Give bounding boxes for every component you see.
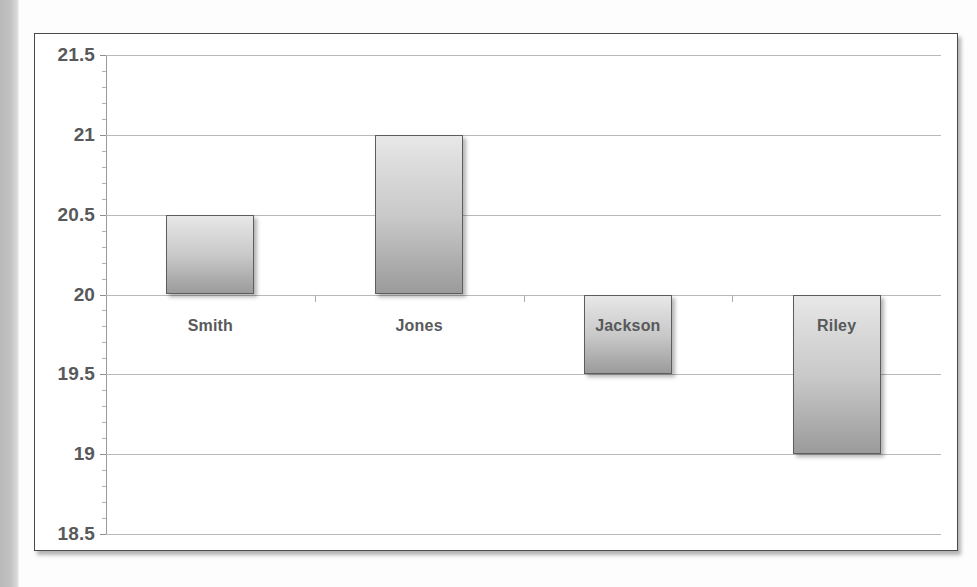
category-label-jones: Jones bbox=[396, 317, 443, 335]
y-axis-major-tick bbox=[100, 534, 106, 535]
y-axis-major-tick bbox=[100, 215, 106, 216]
gridline bbox=[106, 534, 941, 535]
y-axis-minor-tick bbox=[102, 326, 106, 327]
y-axis-minor-tick bbox=[102, 518, 106, 519]
y-axis-minor-tick bbox=[102, 87, 106, 88]
y-axis-tick-label: 20.5 bbox=[58, 204, 95, 226]
y-axis-minor-tick bbox=[102, 151, 106, 152]
category-label-smith: Smith bbox=[188, 317, 233, 335]
y-axis-tick-label: 21.5 bbox=[58, 44, 95, 66]
y-axis-minor-tick bbox=[102, 310, 106, 311]
y-axis-major-tick bbox=[100, 55, 106, 56]
y-axis-minor-tick bbox=[102, 279, 106, 280]
y-axis-minor-tick bbox=[102, 422, 106, 423]
y-axis-major-tick bbox=[100, 295, 106, 296]
scanned-page: 21.52120.52019.51918.5 SmithJonesJackson… bbox=[0, 0, 977, 587]
y-axis-minor-tick bbox=[102, 486, 106, 487]
gridline bbox=[106, 454, 941, 455]
y-axis-tick-label: 19.5 bbox=[58, 363, 95, 385]
y-axis-tick-label: 19 bbox=[74, 443, 95, 465]
y-axis-major-tick bbox=[100, 135, 106, 136]
y-axis-tick-label: 18.5 bbox=[58, 523, 95, 545]
y-axis-minor-tick bbox=[102, 71, 106, 72]
y-axis-minor-tick bbox=[102, 358, 106, 359]
category-label-riley: Riley bbox=[817, 317, 856, 335]
gridline bbox=[106, 135, 941, 136]
chart-frame: 21.52120.52019.51918.5 SmithJonesJackson… bbox=[34, 33, 958, 551]
y-axis-minor-tick bbox=[102, 167, 106, 168]
y-axis-tick-label: 20 bbox=[74, 284, 95, 306]
x-axis-tick bbox=[315, 295, 316, 302]
category-label-jackson: Jackson bbox=[595, 317, 660, 335]
y-axis-minor-tick bbox=[102, 342, 106, 343]
x-axis-tick bbox=[524, 295, 525, 302]
y-axis-minor-tick bbox=[102, 470, 106, 471]
y-axis-minor-tick bbox=[102, 199, 106, 200]
plot-area: 21.52120.52019.51918.5 SmithJonesJackson… bbox=[106, 55, 941, 534]
y-axis-major-tick bbox=[100, 454, 106, 455]
y-axis-minor-tick bbox=[102, 438, 106, 439]
y-axis-minor-tick bbox=[102, 263, 106, 264]
y-axis-minor-tick bbox=[102, 406, 106, 407]
y-axis-tick-label: 21 bbox=[74, 124, 95, 146]
y-axis-major-tick bbox=[100, 374, 106, 375]
y-axis-minor-tick bbox=[102, 390, 106, 391]
y-axis-minor-tick bbox=[102, 247, 106, 248]
y-axis-minor-tick bbox=[102, 119, 106, 120]
y-axis-minor-tick bbox=[102, 502, 106, 503]
bar-smith bbox=[166, 215, 254, 295]
scan-gutter-shadow bbox=[0, 0, 19, 587]
y-axis-minor-tick bbox=[102, 103, 106, 104]
gridline bbox=[106, 55, 941, 56]
y-axis-minor-tick bbox=[102, 183, 106, 184]
bar-jones bbox=[375, 135, 463, 295]
x-axis-tick bbox=[732, 295, 733, 302]
y-axis-minor-tick bbox=[102, 231, 106, 232]
